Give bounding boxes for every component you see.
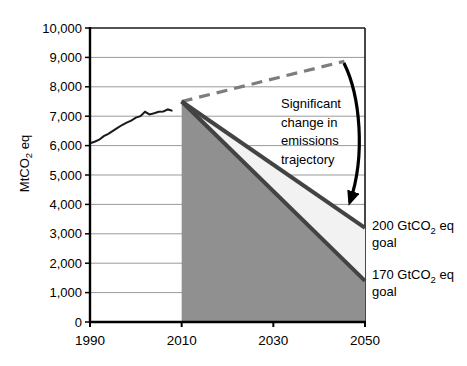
y-tick-label: 5,000 [49,168,82,183]
y-tick-label: 2,000 [49,256,82,271]
goal-170-label: 170 GtCO2 eq goal [372,266,454,300]
y-tick-label: 9,000 [49,50,82,65]
y-tick-label: 1,000 [49,285,82,300]
y-tick-label: 10,000 [42,21,82,36]
y-axis-title-text: MtCO [17,158,32,192]
goal-200-label-line1: 200 GtCO2 eq [372,217,454,234]
y-tick-label: 7,000 [49,109,82,124]
y-tick-label: 0 [75,315,82,330]
goal-170-label-line1: 170 GtCO2 eq [372,266,454,283]
goal-170-label-line2: goal [372,283,454,300]
y-tick-label: 8,000 [49,79,82,94]
goal-170-suffix: eq [436,267,454,282]
trajectory-annotation-line: change in [281,114,341,133]
x-tick-label: 1990 [75,333,105,348]
goal-170-prefix: 170 GtCO [372,267,431,282]
y-axis-title-suffix: eq [17,135,32,153]
goal-200-label-line2: goal [372,234,454,251]
y-axis-title: MtCO2 eq [17,128,32,200]
trajectory-annotation-line: trajectory [281,151,341,170]
x-tick-label: 2050 [350,333,380,348]
trajectory-annotation: Significant change in emissions trajecto… [281,95,341,169]
trajectory-annotation-line: Significant [281,95,341,114]
y-tick-label: 3,000 [49,226,82,241]
goal-200-suffix: eq [436,218,454,233]
chart-canvas: 01,0002,0003,0004,0005,0006,0007,0008,00… [0,0,467,366]
goal-200-prefix: 200 GtCO [372,218,431,233]
x-tick-label: 2030 [258,333,288,348]
x-tick-label: 2010 [167,333,197,348]
y-tick-label: 6,000 [49,138,82,153]
y-axis-title-subscript: 2 [23,153,34,158]
y-tick-label: 4,000 [49,197,82,212]
goal-200-label: 200 GtCO2 eq goal [372,217,454,251]
trajectory-annotation-line: emissions [281,132,341,151]
emissions-trajectory-chart: 01,0002,0003,0004,0005,0006,0007,0008,00… [0,0,467,366]
historical-emissions-line [90,109,173,143]
trajectory-change-arrow [344,63,359,202]
